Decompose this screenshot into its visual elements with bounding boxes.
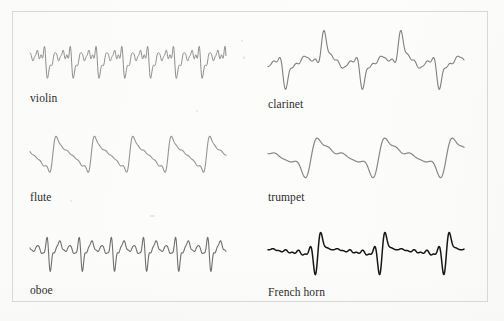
waveform-trace-violin bbox=[30, 30, 226, 88]
wave-stroke bbox=[268, 30, 464, 89]
waveform-label-french-horn: French horn bbox=[268, 286, 325, 299]
waveform-panel-oboe bbox=[30, 222, 226, 278]
wave-stroke bbox=[268, 232, 464, 274]
wave-stroke bbox=[30, 46, 226, 78]
waveform-trace-french-horn bbox=[268, 220, 464, 282]
waveform-panel-flute bbox=[30, 126, 226, 184]
wave-stroke bbox=[268, 138, 464, 178]
waveform-label-clarinet: clarinet bbox=[268, 98, 303, 111]
waveform-label-trumpet: trumpet bbox=[268, 191, 304, 204]
waveform-panel-french-horn bbox=[268, 220, 464, 282]
waveform-panel-clarinet bbox=[268, 26, 464, 96]
waveform-trace-flute bbox=[30, 126, 226, 184]
waveform-panel-trumpet bbox=[268, 126, 464, 186]
waveform-trace-trumpet bbox=[268, 126, 464, 186]
wave-stroke bbox=[30, 136, 226, 172]
waveform-label-violin: violin bbox=[30, 92, 57, 105]
waveform-label-oboe: oboe bbox=[30, 284, 53, 297]
waveform-trace-clarinet bbox=[268, 26, 464, 96]
waveform-label-flute: flute bbox=[30, 191, 52, 204]
waveform-panel-violin bbox=[30, 30, 226, 88]
waveform-figure: violinclarinetflutetrumpetoboeFrench hor… bbox=[0, 0, 504, 321]
waveform-trace-oboe bbox=[30, 222, 226, 278]
wave-stroke bbox=[30, 237, 226, 271]
